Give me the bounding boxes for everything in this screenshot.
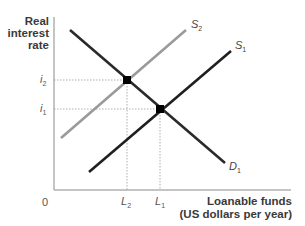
y-axis-label-line: interest xyxy=(7,27,49,39)
guide-lines xyxy=(54,80,160,190)
equilibrium-point-1 xyxy=(156,105,164,113)
y-tick-i1: i1 xyxy=(40,102,46,116)
d1-curve xyxy=(70,30,225,163)
y-axis-label-line: Real xyxy=(7,15,49,27)
x-tick-l1: L1 xyxy=(155,195,165,209)
x-tick-l2: L2 xyxy=(121,195,131,209)
d1-label: D1 xyxy=(229,160,241,174)
x-axis-label-line: (US dollars per year) xyxy=(180,208,292,221)
x-axis-label-line: Loanable funds xyxy=(180,195,292,208)
y-axis-label: Real interest rate xyxy=(7,15,49,51)
origin-label: 0 xyxy=(42,196,48,208)
y-tick-i2: i2 xyxy=(40,73,46,87)
y-axis-label-line: rate xyxy=(7,39,49,51)
equilibrium-point-2 xyxy=(123,76,131,84)
s1-label: S1 xyxy=(235,39,246,53)
s2-label: S2 xyxy=(191,18,202,32)
x-axis-label: Loanable funds (US dollars per year) xyxy=(180,195,292,221)
